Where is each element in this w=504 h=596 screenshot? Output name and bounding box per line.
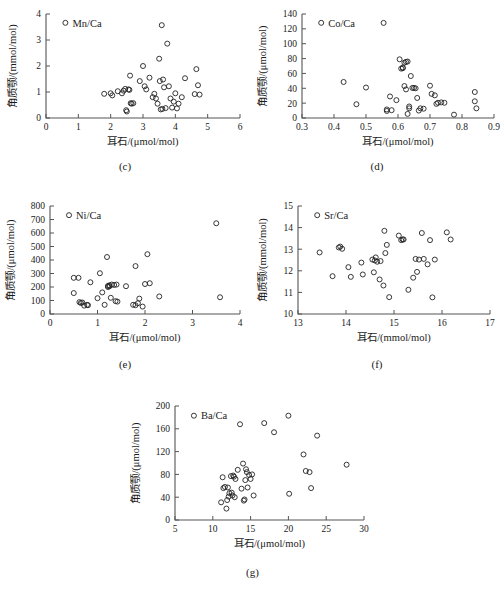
data-point [250, 472, 255, 477]
y-tick-label: 40 [288, 84, 298, 94]
x-axis-title: 耳石/(mmol/mol) [357, 332, 431, 344]
legend-label: Ni/Ca [76, 210, 101, 221]
legend-label: Sr/Ca [324, 210, 348, 221]
data-point [195, 83, 200, 88]
data-point [411, 275, 416, 280]
y-tick-label: 14 [284, 223, 294, 233]
data-point [214, 221, 219, 226]
data-point [71, 275, 76, 280]
data-point [415, 269, 420, 274]
data-point [472, 99, 477, 104]
x-axis-title: 耳石/(μmol/mol) [109, 332, 181, 344]
scatter-plot-f: 1314151617101112131415耳石/(mmol/mol)角质颚/(… [250, 192, 504, 358]
panel-g-caption: (g) [125, 566, 380, 578]
y-tick-label: 200 [156, 401, 171, 411]
scatter-plot-d: 0.30.40.50.60.70.80.9020406080100120140耳… [250, 2, 504, 160]
data-point [165, 41, 170, 46]
y-tick-label: 0 [165, 515, 170, 525]
data-point [416, 257, 421, 262]
data-point [173, 91, 178, 96]
data-point-group [71, 221, 222, 309]
y-tick-label: 0 [292, 113, 297, 123]
y-tick-label: 4 [36, 9, 41, 19]
data-point [341, 79, 346, 84]
y-tick-label: 0 [40, 309, 45, 319]
data-point [170, 105, 175, 110]
panel-d-caption: (d) [250, 160, 504, 172]
data-point [359, 260, 364, 265]
data-point [140, 304, 145, 309]
data-point [97, 271, 102, 276]
y-tick-label: 800 [31, 201, 46, 211]
y-tick-label: 600 [31, 228, 46, 238]
data-point [243, 478, 248, 483]
x-tick-label: 2 [108, 122, 113, 132]
data-point [444, 230, 449, 235]
y-tick-label: 13 [284, 245, 294, 255]
data-point [301, 452, 306, 457]
data-point [387, 295, 392, 300]
data-point [388, 94, 393, 99]
data-point [171, 99, 176, 104]
axis-lines [175, 406, 364, 520]
data-point [137, 79, 142, 84]
data-point [442, 100, 447, 105]
data-point [245, 485, 250, 490]
data-point [137, 296, 142, 301]
y-tick-label: 15 [284, 201, 294, 211]
x-tick-label: 14 [341, 318, 351, 328]
data-point [159, 23, 164, 28]
data-point [408, 74, 413, 79]
y-tick-label: 3 [36, 35, 41, 45]
x-tick-label: 0.5 [360, 122, 372, 132]
data-point [102, 91, 107, 96]
data-point [102, 302, 107, 307]
axis-lines [50, 206, 240, 314]
data-point-group [317, 228, 453, 300]
data-point [405, 111, 410, 116]
data-point [430, 295, 435, 300]
y-axis-title: 角质颚/(mmol/mol) [7, 24, 19, 108]
data-point [371, 270, 376, 275]
y-tick-label: 120 [283, 24, 298, 34]
x-tick-label: 0.6 [392, 122, 404, 132]
y-tick-label: 400 [31, 255, 46, 265]
data-point [364, 85, 369, 90]
data-point [389, 108, 394, 113]
x-tick-label: 5 [173, 524, 178, 534]
data-point [428, 238, 433, 243]
panel-d: 0.30.40.50.60.70.80.9020406080100120140耳… [250, 2, 504, 160]
panel-e-caption: (e) [0, 358, 250, 370]
data-point [381, 20, 386, 25]
x-tick-label: 5 [205, 122, 210, 132]
data-point [163, 106, 168, 111]
data-point [425, 262, 430, 267]
data-point [133, 264, 138, 269]
panel-c-caption: (c) [0, 160, 250, 172]
y-tick-label: 2 [36, 61, 41, 71]
data-point [382, 228, 387, 233]
x-tick-label: 4 [173, 122, 178, 132]
data-point [472, 90, 477, 95]
data-point [344, 462, 349, 467]
data-point [360, 272, 365, 277]
data-point [183, 76, 188, 81]
data-point [415, 95, 420, 100]
data-point [384, 242, 389, 247]
data-point [76, 275, 81, 280]
data-point [251, 493, 256, 498]
y-tick-label: 100 [31, 296, 46, 306]
legend-marker-icon [67, 213, 72, 218]
data-point [287, 491, 292, 496]
x-tick-label: 16 [437, 318, 447, 328]
data-point [166, 84, 171, 89]
multi-panel-scatter-figure: 012345601234耳石/(μmol/mol)角质颚/(mmol/mol)M… [0, 0, 504, 596]
x-tick-label: 0.9 [488, 122, 500, 132]
data-point [381, 283, 386, 288]
y-tick-label: 300 [31, 269, 46, 279]
x-tick-label: 20 [284, 524, 294, 534]
y-tick-label: 1 [36, 87, 41, 97]
y-tick-label: 12 [284, 266, 294, 276]
x-tick-label: 15 [389, 318, 399, 328]
data-point [397, 57, 402, 62]
